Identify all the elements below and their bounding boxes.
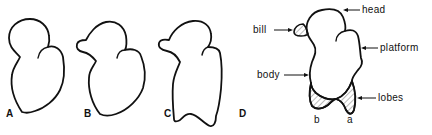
- label-lobe-b: b: [314, 115, 320, 125]
- label-platform: platform: [380, 43, 419, 53]
- leader-arrows: [274, 8, 378, 100]
- shape-d-annotated: [294, 9, 362, 113]
- label-lobe-a: a: [347, 115, 353, 125]
- shape-b: [77, 22, 145, 116]
- label-head: head: [362, 5, 385, 15]
- diagram-drawing: [0, 0, 432, 135]
- label-lobes: lobes: [378, 93, 403, 103]
- label-bill: bill: [253, 25, 266, 35]
- label-body: body: [257, 70, 280, 80]
- shape-a: [9, 19, 64, 113]
- panel-label-b: B: [84, 109, 91, 119]
- panel-label-d: D: [239, 109, 246, 119]
- lobe-b: [310, 83, 336, 109]
- panel-label-c: C: [164, 109, 171, 119]
- panel-label-a: A: [6, 109, 13, 119]
- morphology-diagram: A B C D head bill platform body lobes b …: [0, 0, 432, 135]
